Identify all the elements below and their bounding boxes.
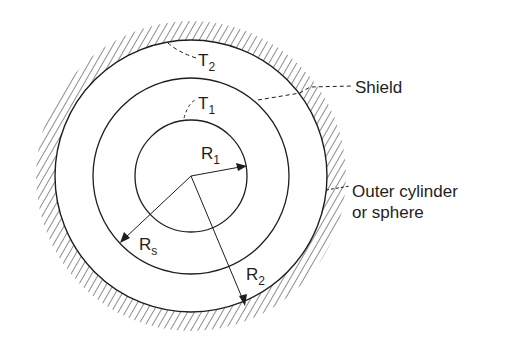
label-outer-line1: Outer cylinder	[352, 182, 458, 201]
label-rs: Rs	[139, 235, 157, 258]
concentric-shield-diagram: T2 T1 R1 Rs R2 Shield Outer cylinder or …	[0, 0, 516, 344]
r2-arrow	[191, 176, 247, 306]
label-t2: T2	[198, 51, 215, 74]
t1-leader	[184, 100, 195, 118]
label-shield: Shield	[355, 78, 402, 97]
label-r1: R1	[201, 144, 220, 167]
label-t1: T1	[198, 94, 215, 117]
label-outer-line2: or sphere	[352, 203, 424, 222]
rs-arrow	[120, 176, 191, 243]
t2-leader	[168, 43, 196, 58]
label-r2: R2	[246, 265, 265, 288]
